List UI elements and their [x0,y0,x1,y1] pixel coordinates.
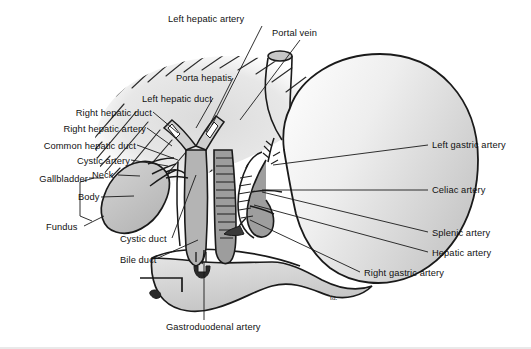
label-cystic-artery: Cystic artery [77,156,130,166]
label-left-hepatic-artery: Left hepatic artery [168,14,244,24]
figure-canvas: td. Left hepatic arteryPortal veinPorta … [0,0,531,349]
label-gastroduodenal-artery: Gastroduodenal artery [166,322,261,332]
label-cystic-duct: Cystic duct [120,234,167,244]
label-common-hepatic-duct: Common hepatic duct [44,141,136,151]
label-splenic-artery: Splenic artery [432,228,490,238]
label-right-hepatic-duct: Right hepatic duct [76,108,152,118]
label-celiac-artery: Celiac artery [432,185,485,195]
label-porta-hepatis: Porta hepatis [176,73,232,83]
label-neck: Neck [92,170,114,180]
label-bile-duct: Bile duct [120,255,157,265]
label-right-gastric-artery: Right gastric artery [364,268,444,278]
label-left-hepatic-duct: Left hepatic duct [142,94,212,104]
label-hepatic-artery: Hepatic artery [432,248,491,258]
label-right-hepatic-artery: Right hepatic artery [63,124,146,134]
label-fundus: Fundus [46,222,78,232]
artist-signature: td. [330,294,337,302]
label-portal-vein: Portal vein [272,28,317,38]
label-gallbladder: Gallbladder [39,174,88,184]
leader-fundus [84,216,104,226]
label-body: Body [78,192,100,202]
label-left-gastric-artery: Left gastric artery [432,140,506,150]
